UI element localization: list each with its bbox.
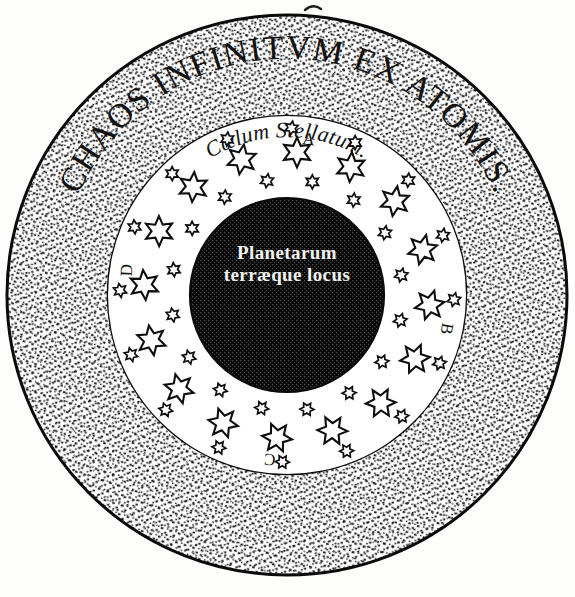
cosmos-diagram: CHAOS INFINITVM EX ATOMIS. Cœlum Stellat… xyxy=(0,0,575,597)
planetary-disk-caption: Planetarum terræque locus xyxy=(224,242,350,285)
planetary-disk-caption-line-1: Planetarum xyxy=(237,242,337,263)
page-edge-mark-icon xyxy=(305,6,321,10)
marker-label-c: C xyxy=(263,450,276,470)
marker-label-d: D xyxy=(117,264,136,277)
cosmology-figure: CHAOS INFINITVM EX ATOMIS. Cœlum Stellat… xyxy=(0,0,575,597)
planetary-disk-caption-line-2: terræque locus xyxy=(224,264,350,285)
